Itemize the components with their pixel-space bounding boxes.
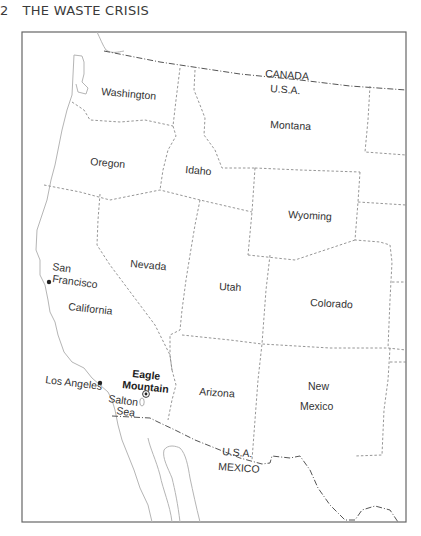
label-usa-south: U.S.A. xyxy=(222,445,253,459)
label-new-mexico-line1: New xyxy=(308,380,329,392)
label-usa-north: U.S.A. xyxy=(270,82,301,96)
state-borders xyxy=(44,68,406,460)
label-los-angeles: Los Angeles xyxy=(45,373,103,392)
label-canada: CANADA xyxy=(265,67,309,82)
label-washington: Washington xyxy=(101,85,157,102)
label-california: California xyxy=(68,300,114,317)
label-new-mexico-line2: Mexico xyxy=(300,400,333,412)
label-wyoming: Wyoming xyxy=(288,208,332,222)
label-colorado: Colorado xyxy=(310,296,353,310)
label-oregon: Oregon xyxy=(90,155,126,170)
label-idaho: Idaho xyxy=(185,163,212,177)
san-francisco-marker xyxy=(47,280,51,284)
label-salton-sea-line2: Sea xyxy=(116,404,136,419)
salton-sea-shape xyxy=(140,398,144,406)
eagle-mountain-marker-dot xyxy=(145,393,148,396)
label-montana: Montana xyxy=(270,118,312,132)
label-san-francisco-line2: Francisco xyxy=(52,272,99,290)
label-eagle-mountain-line2: Mountain xyxy=(122,378,170,395)
label-utah: Utah xyxy=(219,280,242,293)
baja-coastline xyxy=(148,438,200,522)
canada-usa-border xyxy=(104,51,406,90)
label-nevada: Nevada xyxy=(130,257,167,272)
label-arizona: Arizona xyxy=(199,385,236,399)
western-us-map: CANADA U.S.A. U.S.A. MEXICO Washington O… xyxy=(0,0,421,536)
label-mexico: MEXICO xyxy=(218,460,260,475)
